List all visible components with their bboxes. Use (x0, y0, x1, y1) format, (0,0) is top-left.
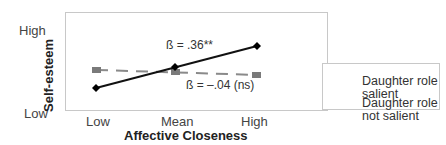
y-axis-title: Self-esteem (41, 31, 56, 121)
x-tick-low: Low (86, 114, 110, 129)
square-marker-icon (92, 67, 101, 73)
diamond-marker-icon (253, 42, 261, 50)
not-salient-beta-annotation: ß = –.04 (ns) (186, 78, 254, 92)
x-tick-high: High (241, 114, 268, 129)
salient-beta-annotation: ß = .36** (166, 38, 213, 52)
legend-not-salient-label: Daughter role not salient (362, 97, 438, 123)
x-tick-mean: Mean (161, 114, 194, 129)
x-axis-title: Affective Closeness (124, 128, 248, 143)
diamond-marker-icon (92, 84, 100, 92)
